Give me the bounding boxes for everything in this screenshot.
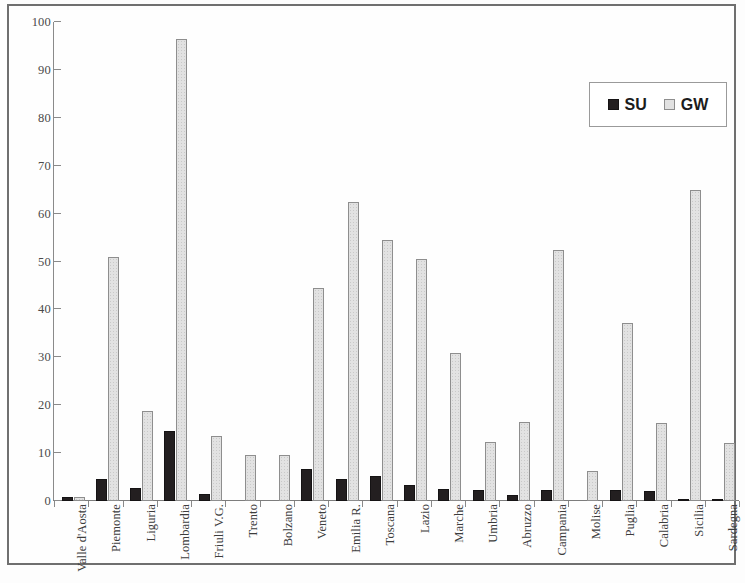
x-axis-label: Valle d'Aosta — [75, 504, 91, 583]
bar-group — [123, 22, 157, 501]
bar-gw — [622, 323, 633, 501]
legend-swatch-icon — [664, 99, 675, 110]
y-tick-label: 100 — [32, 16, 51, 28]
y-tick-label: 20 — [38, 399, 51, 411]
bar-gw — [416, 259, 427, 501]
y-tick-label: 40 — [38, 303, 51, 315]
bar-gw — [485, 442, 496, 501]
bar-gw — [108, 257, 119, 501]
bar-su — [62, 497, 73, 501]
bar-gw — [690, 190, 701, 501]
bar-su — [438, 489, 449, 501]
bar-gw — [279, 455, 290, 501]
bar-group — [328, 22, 362, 501]
legend-entry-gw: GW — [664, 97, 709, 113]
chart-legend: SUGW — [589, 82, 727, 127]
y-tick-label: 60 — [38, 208, 51, 220]
bar-group — [397, 22, 431, 501]
bar-su — [404, 485, 415, 501]
bar-group — [260, 22, 294, 501]
bar-su — [712, 499, 723, 501]
x-axis-label: Emilia R. — [349, 504, 365, 583]
y-tick-label: 70 — [38, 160, 51, 172]
bar-group — [191, 22, 225, 501]
x-axis-label: Bolzano — [281, 504, 297, 583]
legend-entry-su: SU — [608, 97, 647, 113]
y-tick-label: 10 — [38, 447, 51, 459]
legend-entries: SUGW — [590, 83, 726, 126]
bar-gw — [142, 411, 153, 501]
bar-group — [431, 22, 465, 501]
bar-su — [96, 479, 107, 502]
chart-figure: 0102030405060708090100 Valle d'AostaPiem… — [0, 0, 745, 583]
legend-label: SU — [625, 97, 647, 113]
figure-frame: 0102030405060708090100 Valle d'AostaPiem… — [7, 4, 736, 565]
bar-group — [157, 22, 191, 501]
y-tick-label: 50 — [38, 256, 51, 268]
bar-gw — [245, 455, 256, 501]
bar-gw — [656, 423, 667, 501]
x-axis-label: Veneto — [315, 504, 331, 583]
bar-gw — [176, 39, 187, 501]
bar-su — [130, 488, 141, 501]
bar-gw — [587, 471, 598, 501]
bar-su — [644, 491, 655, 501]
bar-gw — [382, 240, 393, 501]
x-axis-label: Umbria — [486, 504, 502, 583]
bar-su — [336, 479, 347, 501]
x-axis-label: Sardegna — [726, 504, 742, 583]
bar-gw — [313, 288, 324, 501]
x-axis-label: Puglia — [623, 504, 639, 583]
bar-su — [507, 495, 518, 501]
x-axis-label: Marche — [452, 504, 468, 583]
x-axis-label: Abruzzo — [520, 504, 536, 583]
bar-group — [465, 22, 499, 501]
legend-label: GW — [681, 97, 709, 113]
bar-su — [301, 469, 312, 501]
x-axis-label: Sicilia — [692, 504, 708, 583]
legend-swatch-icon — [608, 99, 619, 110]
bar-group — [294, 22, 328, 501]
bar-gw — [724, 443, 735, 501]
x-axis-label: Calabria — [657, 504, 673, 583]
y-tick-label: 0 — [45, 495, 51, 507]
bar-group — [499, 22, 533, 501]
x-axis-label: Trento — [246, 504, 262, 583]
bar-gw — [519, 422, 530, 501]
bar-gw — [553, 250, 564, 501]
bar-group — [362, 22, 396, 501]
bar-su — [370, 476, 381, 501]
x-axis-label: Lombardia — [178, 504, 194, 583]
bar-group — [88, 22, 122, 501]
x-axis-label: Liguria — [144, 504, 160, 583]
x-axis-label: Friuli V.G. — [212, 504, 228, 583]
x-axis-label: Toscana — [383, 504, 399, 583]
y-tick-label: 80 — [38, 112, 51, 124]
x-axis-label: Lazio — [418, 504, 434, 583]
bar-gw — [74, 497, 85, 501]
y-tick-label: 90 — [38, 64, 51, 76]
bar-gw — [211, 436, 222, 501]
bar-su — [164, 431, 175, 501]
x-axis-label: Campania — [555, 504, 571, 583]
bar-su — [678, 499, 689, 501]
bar-su — [541, 490, 552, 501]
x-axis-label: Molise — [589, 504, 605, 583]
bar-su — [610, 490, 621, 501]
bar-group — [225, 22, 259, 501]
bar-group — [534, 22, 568, 501]
bar-group — [54, 22, 88, 501]
bar-su — [199, 494, 210, 501]
y-tick-label: 30 — [38, 351, 51, 363]
bar-gw — [348, 202, 359, 501]
x-axis-labels: Valle d'AostaPiemonteLiguriaLombardiaFri… — [53, 506, 739, 583]
bar-su — [473, 490, 484, 501]
x-axis-label: Piemonte — [109, 504, 125, 583]
bar-gw — [450, 353, 461, 501]
